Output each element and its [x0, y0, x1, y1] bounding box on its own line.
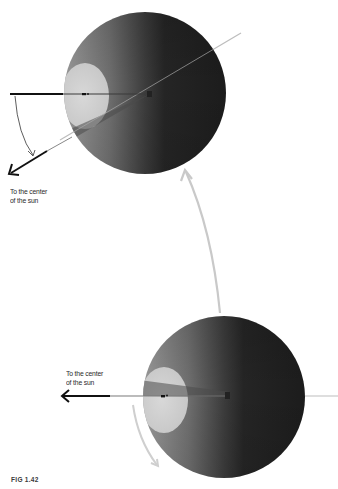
orbit-path-arrow — [181, 170, 220, 313]
bottom-sun-label-line1: To the center — [66, 369, 103, 378]
top-sun-label-line1: To the center — [10, 187, 47, 196]
top-earth-sphere — [9, 12, 241, 175]
bottom-sun-label-line2: of the sun — [66, 378, 103, 387]
top-sun-direction-arrow — [9, 137, 72, 175]
bottom-lit-region — [140, 367, 188, 433]
bottom-earth-sphere — [62, 316, 338, 478]
top-tilt-angle-arc — [15, 96, 35, 156]
bottom-sun-direction-arrow — [62, 390, 143, 402]
figure-caption: FIG 1.42 — [11, 476, 39, 483]
top-sun-label-line2: of the sun — [10, 196, 47, 205]
bottom-sun-label: To the center of the sun — [66, 369, 103, 387]
top-sun-label: To the center of the sun — [10, 187, 47, 205]
earth-rotation-diagram — [0, 0, 338, 489]
